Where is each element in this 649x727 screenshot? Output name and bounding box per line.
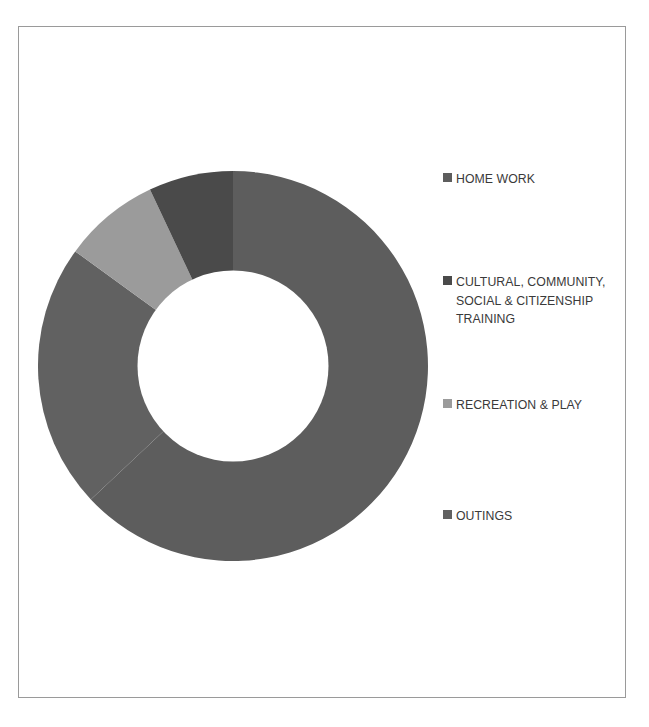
legend-swatch-home-work [443, 173, 452, 182]
legend-swatch-cultural-community [443, 276, 452, 285]
legend-label-home-work: HOME WORK [456, 172, 535, 186]
legend-item-home-work[interactable]: HOME WORK [443, 169, 618, 188]
donut-chart-svg [38, 171, 428, 561]
legend-swatch-outings [443, 510, 452, 519]
legend-label-outings: OUTINGS [456, 509, 512, 523]
legend-label-cultural-community-line3: TRAINING [456, 312, 515, 326]
legend-label-recreation-play: RECREATION & PLAY [456, 398, 582, 412]
donut-center-hole [138, 271, 329, 462]
clipped-header-text [30, 0, 590, 1]
legend-label-cultural-community-line1: CULTURAL, COMMUNITY, [456, 275, 606, 289]
donut-chart [38, 171, 428, 561]
legend-label-cultural-community-line2: SOCIAL & CITIZENSHIP [456, 294, 593, 308]
legend-item-recreation-play[interactable]: RECREATION & PLAY [443, 395, 618, 414]
figure-root: HOME WORK CULTURAL, COMMUNITY,SOCIAL & C… [0, 0, 649, 727]
legend-item-cultural-community[interactable]: CULTURAL, COMMUNITY,SOCIAL & CITIZENSHIP… [443, 272, 618, 328]
legend-swatch-recreation-play [443, 399, 452, 408]
legend-item-outings[interactable]: OUTINGS [443, 506, 618, 525]
